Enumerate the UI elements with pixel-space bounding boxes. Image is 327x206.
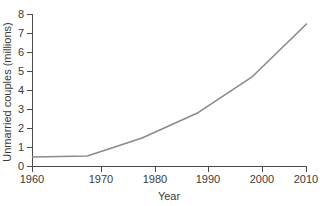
y-tick-label: 2	[18, 122, 24, 134]
x-tick-label: 2000	[250, 173, 274, 185]
chart-canvas: 8 7 6 5 4 3 2 1 0 1960 1970 1980 1990 20…	[0, 0, 327, 206]
x-axis-title: Year	[158, 190, 181, 202]
y-axis-tick-labels: 8 7 6 5 4 3 2 1 0	[18, 8, 24, 172]
y-tick-label: 5	[18, 65, 24, 77]
y-tick-label: 0	[18, 160, 24, 172]
x-tick-label: 1960	[20, 173, 44, 185]
y-tick-label: 1	[18, 141, 24, 153]
y-tick-label: 8	[18, 8, 24, 20]
line-chart-figure: 8 7 6 5 4 3 2 1 0 1960 1970 1980 1990 20…	[0, 0, 327, 206]
x-tick-label: 1970	[89, 173, 113, 185]
y-tick-label: 7	[18, 27, 24, 39]
y-tick-label: 4	[18, 84, 24, 96]
x-tick-label: 1980	[143, 173, 167, 185]
x-tick-label: 1990	[196, 173, 220, 185]
y-tick-label: 6	[18, 46, 24, 58]
y-tick-label: 3	[18, 103, 24, 115]
y-axis-title: Unmarried couples (millions)	[1, 22, 13, 161]
x-tick-label: 2010	[294, 173, 318, 185]
